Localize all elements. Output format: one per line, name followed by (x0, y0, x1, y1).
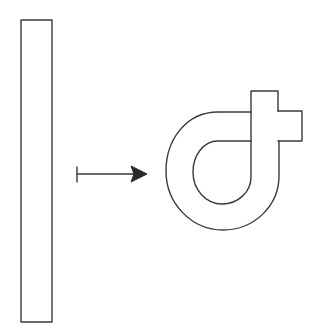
straight-bar (21, 20, 52, 322)
diagram-description: Transformation of a straight bar into a … (0, 0, 1, 1)
looped-bar (166, 91, 302, 230)
maps-to-arrow-icon (77, 166, 147, 182)
protruding-tab (278, 111, 302, 141)
outer-loop (166, 112, 279, 230)
inner-loop (193, 141, 251, 204)
diagram-svg (0, 0, 324, 336)
vertical-bar-end (251, 91, 278, 141)
